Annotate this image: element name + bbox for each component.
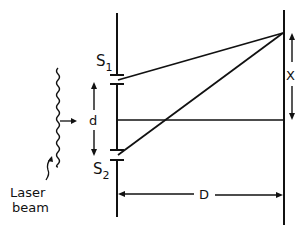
label-beam: beam — [12, 200, 49, 215]
beam-direction-arrow — [60, 118, 77, 124]
label-d: d — [89, 113, 97, 128]
laser-wave — [57, 68, 60, 167]
ray-s2 — [118, 33, 283, 155]
label-pointer-arrow — [46, 156, 53, 180]
label-s2: S2 — [93, 160, 110, 182]
label-D: D — [199, 187, 209, 202]
slit-barrier — [110, 13, 124, 217]
label-x: X — [286, 68, 295, 83]
label-s1: S1 — [96, 52, 113, 74]
double-slit-diagram: d S1 S2 X D Laser beam — [0, 0, 302, 229]
label-laser: Laser — [10, 185, 46, 200]
ray-s1 — [118, 33, 283, 80]
